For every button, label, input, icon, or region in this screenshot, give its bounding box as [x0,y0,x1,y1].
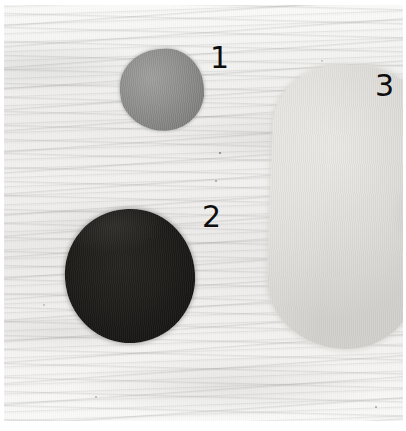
specimen-3-sheen [265,62,403,351]
specimen-label-2: 2 [202,202,221,232]
specimen-label-1: 1 [210,43,229,73]
textured-background-surface: 1 2 3 [4,5,403,421]
specimen-label-3: 3 [375,71,394,101]
specimen-3 [265,62,403,351]
specimen-photograph: 1 2 3 [0,0,406,431]
